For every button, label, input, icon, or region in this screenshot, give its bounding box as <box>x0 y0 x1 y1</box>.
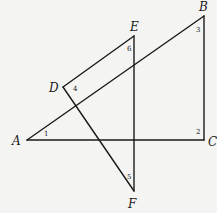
angle-label-1: 1 <box>44 130 48 138</box>
vertex-label-a: A <box>11 134 21 148</box>
vertex-label-d: D <box>48 81 59 95</box>
vertex-label-c: C <box>208 135 217 149</box>
vertex-labels: ABCDEF <box>11 0 217 211</box>
angle-labels: 123456 <box>44 26 200 181</box>
segment-ab <box>27 16 204 140</box>
segment-df <box>63 87 134 191</box>
angle-label-4: 4 <box>73 85 78 93</box>
segment-de <box>63 36 134 87</box>
angle-label-3: 3 <box>196 26 200 34</box>
angle-label-6: 6 <box>127 45 132 53</box>
vertex-label-f: F <box>127 197 137 211</box>
vertex-label-b: B <box>198 0 208 14</box>
segments <box>27 16 204 191</box>
geometry-diagram: ABCDEF 123456 <box>0 0 217 213</box>
angle-label-2: 2 <box>196 128 200 136</box>
angle-label-5: 5 <box>127 173 131 181</box>
vertex-label-e: E <box>129 20 139 34</box>
